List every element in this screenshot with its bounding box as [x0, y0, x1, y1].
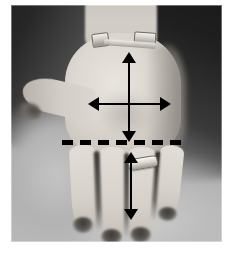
figure-container: [0, 0, 232, 254]
photo-plate-edge: [11, 5, 222, 242]
hand-photograph: [11, 5, 222, 242]
